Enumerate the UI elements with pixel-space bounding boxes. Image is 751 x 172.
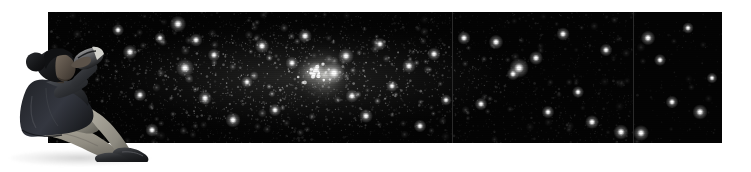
hair-bun — [26, 53, 45, 72]
scene-stage — [0, 0, 751, 172]
seated-stargazer-figure — [6, 36, 154, 162]
stargazer-illustration — [6, 36, 154, 162]
binoculars — [71, 47, 104, 70]
head — [26, 49, 76, 84]
